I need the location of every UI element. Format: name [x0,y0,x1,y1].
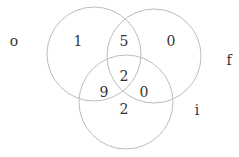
set-circle-f [107,9,201,103]
region-count-o-only: 1 [74,33,83,49]
region-count-o-f: 5 [120,33,129,49]
region-count-o-i: 9 [100,84,109,100]
set-label-o: o [10,33,18,49]
set-label-f: f [226,52,233,68]
region-count-o-f-i: 2 [120,68,129,84]
set-label-i: i [195,102,200,118]
venn-svg: ofi1502902 [0,0,239,157]
region-count-f-only: 0 [167,33,176,49]
region-count-i-only: 2 [120,101,129,117]
region-count-f-i: 0 [140,84,149,100]
venn-diagram: ofi1502902 [0,0,239,157]
set-circle-o [47,7,141,101]
